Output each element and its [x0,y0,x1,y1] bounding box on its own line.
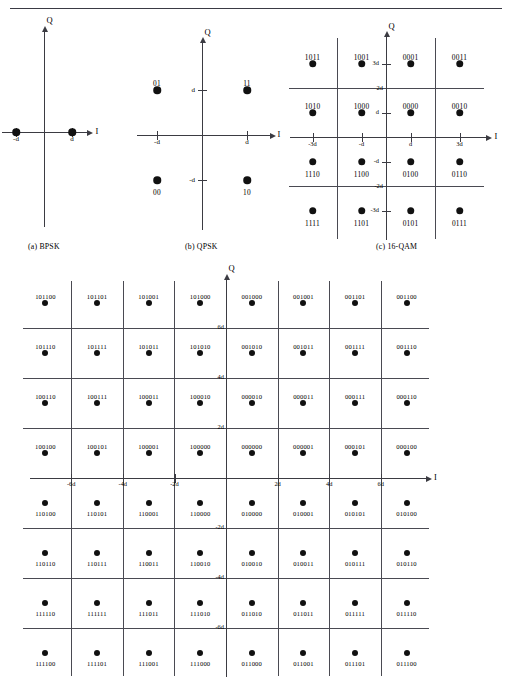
constellation-point [300,550,306,556]
constellation-label: 000111 [345,394,365,401]
constellation-point [197,500,203,506]
y-tick-label: -d [374,158,379,164]
constellation-point [94,450,100,456]
i-axis-line [30,478,426,479]
constellation-label: 001001 [293,294,314,301]
constellation-label: 110000 [190,511,210,518]
y-tick [198,90,207,91]
constellation-point [197,350,203,356]
constellation-point [146,600,152,606]
y-tick-label: 3d [373,60,379,66]
constellation-point [352,650,358,656]
constellation-point [146,500,152,506]
constellation-label: 001111 [345,344,365,351]
x-tick-label: 6d [378,481,384,487]
constellation-label: 00 [153,189,161,196]
i-axis-line [290,137,486,138]
constellation-label: 011101 [345,661,365,668]
constellation-point [42,350,48,356]
constellation-point [404,500,410,506]
constellation-point [300,450,306,456]
constellation-label: 111100 [35,661,55,668]
constellation-label: 011000 [242,661,262,668]
constellation-label: 0101 [403,220,419,227]
constellation-label: 1111 [305,220,320,227]
q-axis-line [202,43,203,230]
constellation-point [94,350,100,356]
i-axis-label: I [434,473,437,482]
q-axis-line [44,31,45,227]
i-axis-label: I [278,130,281,139]
constellation-point [197,650,203,656]
constellation-label: 000010 [241,394,262,401]
constellation-label: 010110 [396,561,416,568]
constellation-point [404,300,410,306]
constellation-point [358,158,366,166]
x-tick-label: 2d [274,481,280,487]
constellation-point [456,207,464,215]
constellation-point [42,450,48,456]
y-tick [382,211,391,212]
caption-qpsk: (b) QPSK [185,243,218,251]
constellation-point [249,350,255,356]
constellation-point [42,550,48,556]
constellation-point [352,400,358,406]
constellation-label: 111101 [87,661,107,668]
constellation-label: 010000 [241,511,262,518]
constellation-label: 000011 [293,394,313,401]
constellation-point [352,300,358,306]
x-tick-label: -4d [119,481,128,487]
i-axis-arrow [486,135,492,141]
constellation-point [249,450,255,456]
y-tick [198,180,207,181]
constellation-label: 011011 [293,611,313,618]
constellation-point [146,300,152,306]
constellation-point [352,450,358,456]
constellation-label: 100001 [138,444,159,451]
constellation-label: 110110 [35,561,55,568]
constellation-label: 1010 [305,103,321,110]
constellation-point [404,450,410,456]
constellation-label: 000001 [293,444,314,451]
constellation-point [146,650,152,656]
q-axis-label: Q [205,28,211,37]
constellation-point [197,300,203,306]
constellation-point [42,600,48,606]
x-tick-label: -d [154,139,160,146]
constellation-label: 010011 [293,561,313,568]
constellation-label: 101001 [138,294,159,301]
y-tick-label: d [376,109,379,115]
constellation-label: 1101 [354,220,369,227]
constellation-label: 100111 [87,394,107,401]
constellation-point [300,350,306,356]
constellation-point [407,207,415,215]
constellation-label: 110011 [138,561,158,568]
constellation-label: 011110 [397,611,417,618]
constellation-point [300,300,306,306]
constellation-point [243,176,251,184]
constellation-label: 101111 [87,344,107,351]
constellation-point [42,300,48,306]
constellation-label: 000110 [396,394,416,401]
constellation-label: 000000 [241,444,262,451]
constellation-point [404,400,410,406]
constellation-label: 010010 [241,561,262,568]
constellation-label: 001010 [241,344,262,351]
constellation-label: 010100 [396,511,417,518]
constellation-label: 100101 [87,444,108,451]
constellation-label: 110111 [87,561,107,568]
gridline-y-label: 2d [377,85,383,91]
x-tick-label: -d [359,141,364,147]
x-tick-label: d [409,141,412,147]
constellation-label: 001110 [396,344,416,351]
constellation-label: 101000 [190,294,211,301]
constellation-point [12,128,20,136]
q-axis-arrow [384,31,390,37]
constellation-point [404,350,410,356]
y-tick-label: -d [189,177,195,184]
gridline-y-label: -4d [215,574,224,580]
constellation-label: 100000 [190,444,211,451]
constellation-point [42,500,48,506]
constellation-point [358,207,366,215]
x-tick-label: 3d [456,141,462,147]
